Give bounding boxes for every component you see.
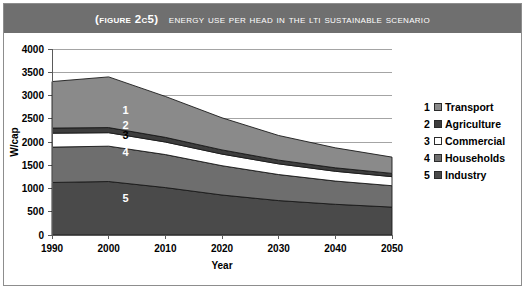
- legend-swatch-icon: [434, 120, 442, 128]
- legend-item-label: Commercial: [445, 135, 505, 147]
- y-axis-title: W/cap: [9, 127, 20, 156]
- xtick-label-2030: 2030: [268, 243, 291, 254]
- legend-item-number: 1: [424, 101, 433, 113]
- legend-item-label: Agriculture: [445, 118, 501, 130]
- xtick-label-1990: 1990: [41, 243, 64, 254]
- band-label-1: 1: [123, 104, 129, 116]
- xtick-label-2000: 2000: [98, 243, 121, 254]
- legend-item-label: Industry: [445, 169, 486, 181]
- legend-item-label: Transport: [445, 101, 493, 113]
- legend-item-number: 5: [424, 169, 433, 181]
- figure-title-text: Energy use per head in the LTI sustainab…: [169, 13, 430, 25]
- xtick-label-2010: 2010: [154, 243, 177, 254]
- ytick-label-1500: 1500: [22, 160, 45, 171]
- xtick-label-2050: 2050: [381, 243, 404, 254]
- legend-swatch-icon: [434, 103, 442, 111]
- ytick-label-2000: 2000: [22, 137, 45, 148]
- ytick-label-0: 0: [38, 230, 44, 241]
- legend-item-label: Households: [445, 152, 505, 164]
- figure-title-banner: (Figure 2C5) Energy use per head in the …: [4, 4, 521, 33]
- figure-number: (Figure 2C5): [95, 13, 158, 25]
- band-label-3: 3: [123, 129, 129, 141]
- ytick-label-3000: 3000: [22, 90, 45, 101]
- figure-title: (Figure 2C5) Energy use per head in the …: [95, 13, 430, 25]
- legend-swatch-icon: [434, 154, 442, 162]
- ytick-label-1000: 1000: [22, 183, 45, 194]
- legend-item-commercial: 3Commercial: [424, 132, 522, 149]
- legend-item-number: 2: [424, 118, 433, 130]
- legend-item-number: 4: [424, 152, 433, 164]
- legend-item-industry: 5Industry: [424, 166, 522, 183]
- chart-legend: 1Transport2Agriculture3Commercial4Househ…: [424, 98, 522, 183]
- legend-item-transport: 1Transport: [424, 98, 522, 115]
- legend-item-agriculture: 2Agriculture: [424, 115, 522, 132]
- legend-swatch-icon: [434, 171, 442, 179]
- ytick-label-3500: 3500: [22, 67, 45, 78]
- band-label-5: 5: [123, 192, 129, 204]
- band-label-4: 4: [123, 146, 130, 158]
- legend-swatch-icon: [434, 137, 442, 145]
- x-axis-title: Year: [211, 260, 232, 271]
- figure-container: (Figure 2C5) Energy use per head in the …: [0, 0, 525, 289]
- ytick-label-4000: 4000: [22, 44, 45, 55]
- ytick-label-500: 500: [27, 206, 44, 217]
- xtick-label-2020: 2020: [211, 243, 234, 254]
- ytick-label-2500: 2500: [22, 113, 45, 124]
- legend-item-households: 4Households: [424, 149, 522, 166]
- legend-item-number: 3: [424, 135, 433, 147]
- xtick-label-2040: 2040: [324, 243, 347, 254]
